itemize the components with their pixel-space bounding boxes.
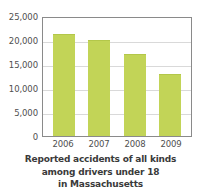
bar-slot xyxy=(124,18,146,136)
bar-slot xyxy=(53,18,75,136)
y-axis-tick-label: 0 xyxy=(33,132,38,142)
bar xyxy=(88,40,110,136)
bar xyxy=(53,34,75,136)
y-axis-tick-label: 5,000 xyxy=(14,108,38,118)
bar-chart-figure: 05,00010,00015,00020,00025,000 200620072… xyxy=(0,0,201,196)
x-axis-tick-label: 2009 xyxy=(160,139,182,149)
x-axis-tick-label: 2006 xyxy=(52,139,74,149)
bar xyxy=(159,74,181,136)
bar-series xyxy=(43,18,191,136)
x-axis-tick-label: 2008 xyxy=(124,139,146,149)
x-axis: 2006200720082009 xyxy=(42,139,192,149)
bar xyxy=(124,54,146,136)
caption-line: in Massachusetts xyxy=(0,178,201,191)
caption-line: among drivers under 18 xyxy=(0,166,201,179)
bar-slot xyxy=(88,18,110,136)
bar-slot xyxy=(159,18,181,136)
y-axis-tick-label: 20,000 xyxy=(9,36,38,46)
y-axis: 05,00010,00015,00020,00025,000 xyxy=(0,17,38,137)
chart-caption: Reported accidents of all kindsamong dri… xyxy=(0,153,201,191)
y-axis-tick-label: 10,000 xyxy=(9,84,38,94)
y-axis-tick-label: 15,000 xyxy=(9,60,38,70)
plot-area xyxy=(42,17,192,137)
x-axis-tick-label: 2007 xyxy=(88,139,110,149)
y-axis-tick-label: 25,000 xyxy=(9,12,38,22)
caption-line: Reported accidents of all kinds xyxy=(0,153,201,166)
